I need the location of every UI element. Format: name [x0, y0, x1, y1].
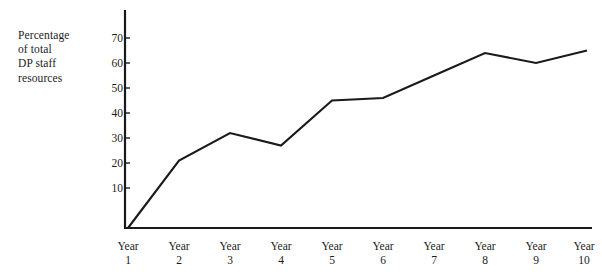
x-tick-num-10: 10 [557, 254, 602, 268]
x-tick-word-7: Year [407, 240, 461, 254]
x-tick-num-9: 9 [509, 254, 563, 268]
x-tick-word-1: Year [101, 240, 155, 254]
x-tick-label-year-8: Year 8 [458, 240, 512, 267]
x-tick-label-year-7: Year 7 [407, 240, 461, 267]
x-tick-label-year-1: Year 1 [101, 240, 155, 267]
x-tick-num-6: 6 [356, 254, 410, 268]
x-tick-num-8: 8 [458, 254, 512, 268]
x-tick-word-3: Year [203, 240, 257, 254]
x-tick-num-5: 5 [305, 254, 359, 268]
x-tick-word-5: Year [305, 240, 359, 254]
x-tick-label-year-3: Year 3 [203, 240, 257, 267]
line-chart-figure: Percentage of total DP staff resources 7… [0, 0, 602, 280]
x-tick-num-1: 1 [101, 254, 155, 268]
x-tick-word-10: Year [557, 240, 602, 254]
x-tick-num-3: 3 [203, 254, 257, 268]
plot-area [0, 0, 602, 280]
x-tick-num-2: 2 [152, 254, 206, 268]
x-tick-label-year-4: Year 4 [254, 240, 308, 267]
x-tick-word-9: Year [509, 240, 563, 254]
x-tick-label-year-9: Year 9 [509, 240, 563, 267]
x-tick-label-year-10: Year 10 [557, 240, 602, 267]
x-tick-num-4: 4 [254, 254, 308, 268]
x-tick-word-4: Year [254, 240, 308, 254]
x-tick-label-year-5: Year 5 [305, 240, 359, 267]
x-tick-label-year-2: Year 2 [152, 240, 206, 267]
x-tick-word-6: Year [356, 240, 410, 254]
x-tick-label-year-6: Year 6 [356, 240, 410, 267]
x-tick-word-8: Year [458, 240, 512, 254]
x-tick-word-2: Year [152, 240, 206, 254]
data-series-line [128, 51, 587, 229]
x-tick-num-7: 7 [407, 254, 461, 268]
